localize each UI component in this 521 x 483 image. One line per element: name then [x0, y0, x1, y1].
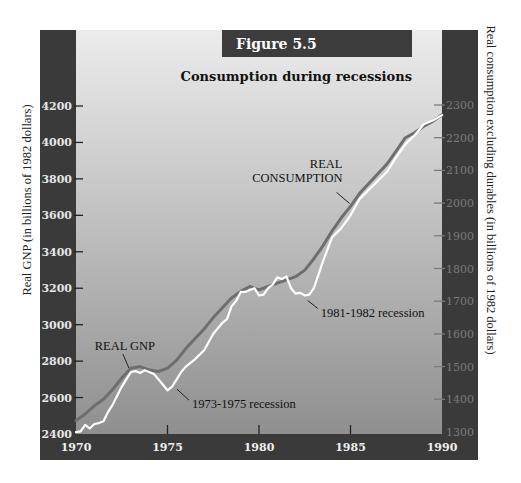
y-right-tick-label: 2100 — [446, 164, 474, 177]
y-right-tick-label: 1300 — [446, 426, 474, 439]
y-right-tick-label: 1600 — [446, 328, 474, 341]
y-right-tick-label: 1800 — [446, 263, 474, 276]
y-right-tick-label: 1700 — [446, 295, 474, 308]
annotation-1973-1975-recession: 1973-1975 recession — [192, 397, 297, 411]
y-left-tick-label: 3400 — [41, 246, 72, 259]
y-left-tick-label: 3000 — [41, 319, 72, 332]
y-right-tick-label: 2000 — [446, 197, 474, 210]
chart-title: Consumption during recessions — [181, 69, 412, 84]
y-axis-left-title: Real GNP (in billions of 1982 dollars) — [20, 104, 34, 295]
y-right-tick-label: 2200 — [446, 132, 474, 145]
y-left-tick-label: 2600 — [41, 392, 72, 405]
y-left-tick-label: 2800 — [41, 355, 72, 368]
annotation-real-consumption-line1: REAL — [310, 157, 343, 171]
x-tick-label: 1985 — [335, 441, 366, 454]
annotation-real-consumption-line2: CONSUMPTION — [252, 171, 342, 185]
y-axis-right-title: Real consumption excluding durables (in … — [484, 25, 498, 354]
x-tick-label: 1970 — [61, 441, 92, 454]
y-left-tick-label: 3800 — [41, 173, 72, 186]
y-left-tick-label: 4000 — [41, 136, 72, 149]
y-left-tick-label: 4200 — [41, 100, 72, 113]
y-right-tick-label: 1400 — [446, 393, 474, 406]
x-tick-label: 1980 — [244, 441, 275, 454]
y-left-tick-label: 2400 — [41, 428, 72, 441]
annotation-real-gnp: REAL GNP — [95, 339, 155, 353]
y-right-tick-label: 2300 — [446, 99, 474, 112]
annotation-1981-1982-recession: 1981-1982 recession — [321, 306, 426, 320]
y-right-tick-label: 1500 — [446, 361, 474, 374]
x-tick-label: 1975 — [152, 441, 183, 454]
chart: Figure 5.5 Consumption during recessions… — [0, 0, 521, 483]
y-left-tick-label: 3600 — [41, 209, 72, 222]
x-tick-label: 1990 — [427, 441, 458, 454]
figure-label: Figure 5.5 — [236, 36, 317, 52]
y-left-tick-label: 3200 — [41, 282, 72, 295]
y-right-tick-label: 1900 — [446, 230, 474, 243]
